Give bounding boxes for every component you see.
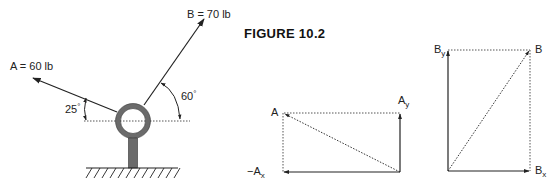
eyebolt-diagram <box>33 19 204 178</box>
b-x-sub: x <box>542 170 546 179</box>
a-resultant-label: A <box>271 107 278 118</box>
a-y-label: Ay <box>398 95 409 106</box>
a-resultant-dotted-arrow <box>285 114 400 172</box>
angle-a-label: 25° <box>65 104 80 115</box>
a-x-base: A <box>253 165 260 177</box>
angle-b-label: 60° <box>181 91 196 102</box>
degree-symbol: ° <box>77 102 80 111</box>
figure-title: FIGURE 10.2 <box>244 26 325 41</box>
b-resultant-dotted-arrow <box>448 51 529 171</box>
a-x-label: −Ax <box>247 166 265 177</box>
b-resultant-label: B <box>535 44 542 55</box>
force-a-label: A = 60 lb <box>10 61 53 72</box>
degree-symbol: ° <box>193 89 196 98</box>
a-x-sub: x <box>261 171 265 180</box>
b-y-sub: y <box>441 49 445 58</box>
b-y-label: By <box>434 44 445 55</box>
angle-a-value: 25 <box>65 103 77 115</box>
angle-b-value: 60 <box>181 90 193 102</box>
a-y-sub: y <box>405 100 409 109</box>
components-a-diagram <box>283 113 400 172</box>
ground-hatching <box>86 168 180 178</box>
angle-arc-a <box>85 98 87 120</box>
force-b-label: B = 70 lb <box>187 9 231 20</box>
b-x-label: Bx <box>535 165 546 176</box>
angle-arc-b <box>161 83 180 119</box>
figure-canvas: FIGURE 10.2 A = 60 lb B = 70 lb 25° 60° … <box>0 0 549 183</box>
eyebolt-stem <box>129 138 138 168</box>
components-b-diagram <box>448 50 530 171</box>
